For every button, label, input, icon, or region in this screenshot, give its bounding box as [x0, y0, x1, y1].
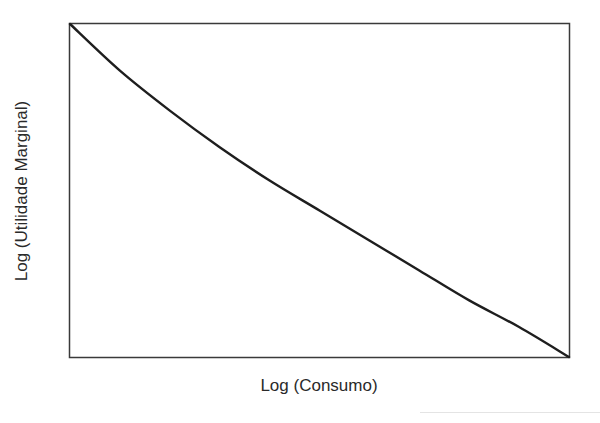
- marginal-utility-curve: [70, 24, 569, 357]
- y-axis-label: Log (Utilidade Marginal): [12, 101, 31, 281]
- divider: [420, 412, 600, 413]
- x-axis-label: Log (Consumo): [260, 376, 377, 395]
- plot-frame: [70, 24, 570, 358]
- chart: Log (Consumo) Log (Utilidade Marginal): [0, 0, 600, 423]
